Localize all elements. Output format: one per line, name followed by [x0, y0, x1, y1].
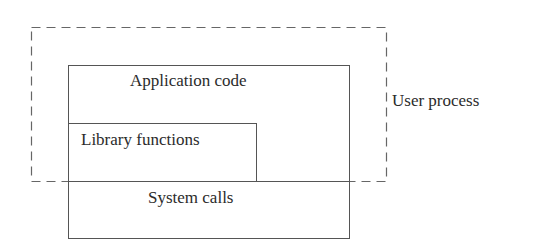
- user-process-label: User process: [392, 91, 479, 111]
- library-functions-label: Library functions: [81, 130, 200, 150]
- process-layers-diagram: Application code Library functions Syste…: [0, 0, 541, 249]
- user-process-boundary: [32, 28, 387, 182]
- application-code-label: Application code: [130, 71, 247, 91]
- application-code-box: [69, 66, 350, 239]
- system-calls-label: System calls: [148, 188, 233, 208]
- diagram-lines: [0, 0, 541, 249]
